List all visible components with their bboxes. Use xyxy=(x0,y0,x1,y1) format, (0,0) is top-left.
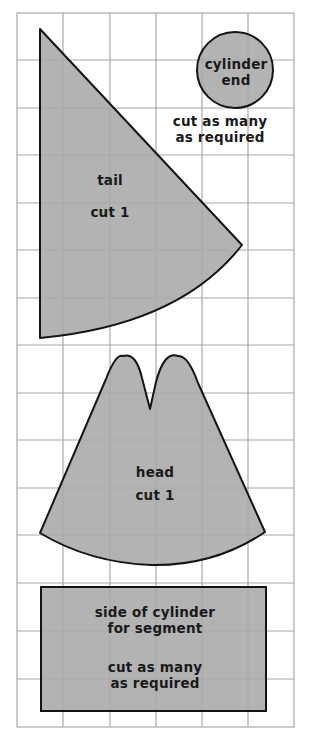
tail-label: tail xyxy=(80,172,140,188)
cylinder-end-label-line1: cylinder xyxy=(196,56,276,72)
cylinder-side-label-line2: for segment xyxy=(70,620,240,636)
cylinder-side-instruction-line2: as required xyxy=(70,675,240,691)
cylinder-side-instruction-line1: cut as many xyxy=(70,659,240,675)
cylinder-end-instruction: cut as many as required xyxy=(160,113,280,145)
head-label: head xyxy=(120,464,190,480)
cylinder-end-label-line2: end xyxy=(196,72,276,88)
head-piece xyxy=(40,355,265,565)
cylinder-end-instruction-line2: as required xyxy=(160,129,280,145)
cylinder-side-label: side of cylinder for segment xyxy=(70,604,240,636)
cylinder-side-label-line1: side of cylinder xyxy=(70,604,240,620)
cylinder-side-instruction: cut as many as required xyxy=(70,659,240,691)
head-instruction: cut 1 xyxy=(120,487,190,503)
cylinder-end-label: cylinder end xyxy=(196,56,276,88)
cylinder-end-instruction-line1: cut as many xyxy=(160,113,280,129)
tail-instruction: cut 1 xyxy=(80,204,140,220)
